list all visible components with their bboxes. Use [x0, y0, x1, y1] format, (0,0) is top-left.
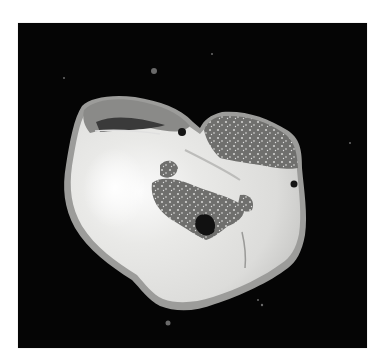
dark-spot — [178, 128, 186, 136]
specimen-photo — [18, 23, 367, 348]
specimen-illustration — [18, 23, 367, 348]
highlight — [83, 148, 147, 228]
dark-spot — [291, 181, 298, 188]
